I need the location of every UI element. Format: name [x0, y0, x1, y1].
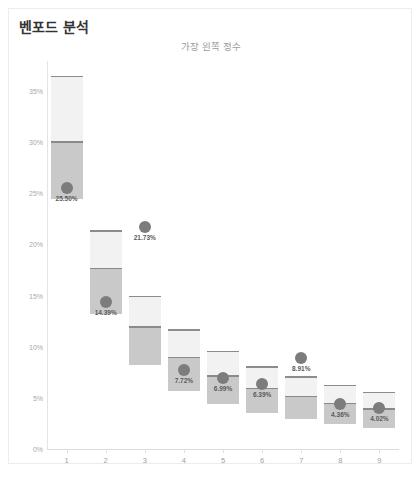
x-axis-tick-mark [145, 449, 146, 453]
data-point-7[interactable] [295, 352, 307, 364]
expected-range-inner-3 [129, 326, 161, 365]
data-point-label-9: 4.02% [370, 415, 388, 422]
data-point-label-5: 6.99% [214, 385, 232, 392]
x-axis-tick-mark [223, 449, 224, 453]
y-axis-tick-25: 25% [29, 190, 43, 197]
x-axis-tick-8: 8 [338, 456, 342, 465]
chart-subtitle: 가장 왼쪽 정수 [9, 39, 413, 53]
range-upper-cap-1 [51, 76, 83, 78]
data-point-8[interactable] [334, 398, 346, 410]
benford-analysis-card: 벤포드 분석 가장 왼쪽 정수 0%5%10%15%20%25%30%35% 1… [8, 8, 412, 464]
x-axis-tick-4: 4 [182, 456, 186, 465]
data-point-6[interactable] [256, 378, 268, 390]
data-point-label-6: 6.39% [253, 391, 271, 398]
x-axis-tick-mark [106, 449, 107, 453]
x-axis-tick-1: 1 [64, 456, 68, 465]
data-point-3[interactable] [139, 221, 151, 233]
range-upper-cap-7 [285, 376, 317, 378]
expected-range-inner-7 [285, 396, 317, 420]
data-point-4[interactable] [178, 364, 190, 376]
data-point-9[interactable] [373, 402, 385, 414]
data-point-2[interactable] [100, 296, 112, 308]
range-upper-cap-5 [207, 351, 239, 353]
data-point-label-4: 7.72% [175, 377, 193, 384]
data-point-5[interactable] [217, 372, 229, 384]
range-mid-line-2 [90, 268, 122, 270]
x-axis-tick-mark [379, 449, 380, 453]
range-upper-cap-6 [246, 366, 278, 368]
y-axis-tick-0: 0% [33, 446, 43, 453]
x-axis-tick-2: 2 [104, 456, 108, 465]
data-point-label-7: 8.91% [292, 365, 310, 372]
range-mid-line-1 [51, 141, 83, 143]
x-axis-tick-5: 5 [221, 456, 225, 465]
data-point-label-8: 4.36% [331, 411, 349, 418]
y-axis-tick-15: 15% [29, 292, 43, 299]
range-upper-cap-4 [168, 329, 200, 331]
x-axis-tick-3: 3 [143, 456, 147, 465]
x-axis-tick-mark [301, 449, 302, 453]
range-mid-line-3 [129, 326, 161, 328]
x-axis-tick-7: 7 [299, 456, 303, 465]
x-axis-tick-9: 9 [377, 456, 381, 465]
x-axis-tick-mark [67, 449, 68, 453]
data-point-label-2: 14.39% [95, 309, 117, 316]
data-point-label-3: 21.73% [134, 234, 156, 241]
y-axis-tick-35: 35% [29, 88, 43, 95]
x-axis-tick-mark [262, 449, 263, 453]
y-axis-tick-10: 10% [29, 343, 43, 350]
x-axis-tick-6: 6 [260, 456, 264, 465]
y-axis-tick-30: 30% [29, 139, 43, 146]
range-upper-cap-2 [90, 230, 122, 232]
range-upper-cap-9 [363, 392, 395, 394]
y-axis-tick-20: 20% [29, 241, 43, 248]
range-mid-line-7 [285, 396, 317, 398]
data-point-label-1: 25.50% [56, 195, 78, 202]
data-point-1[interactable] [61, 182, 73, 194]
x-axis-tick-mark [340, 449, 341, 453]
y-axis-line [47, 61, 48, 449]
y-axis-tick-5: 5% [33, 394, 43, 401]
range-mid-line-4 [168, 357, 200, 359]
y-axis-tick-labels: 0%5%10%15%20%25%30%35% [9, 9, 43, 480]
range-upper-cap-8 [324, 385, 356, 387]
range-upper-cap-3 [129, 296, 161, 298]
x-axis-tick-mark [184, 449, 185, 453]
